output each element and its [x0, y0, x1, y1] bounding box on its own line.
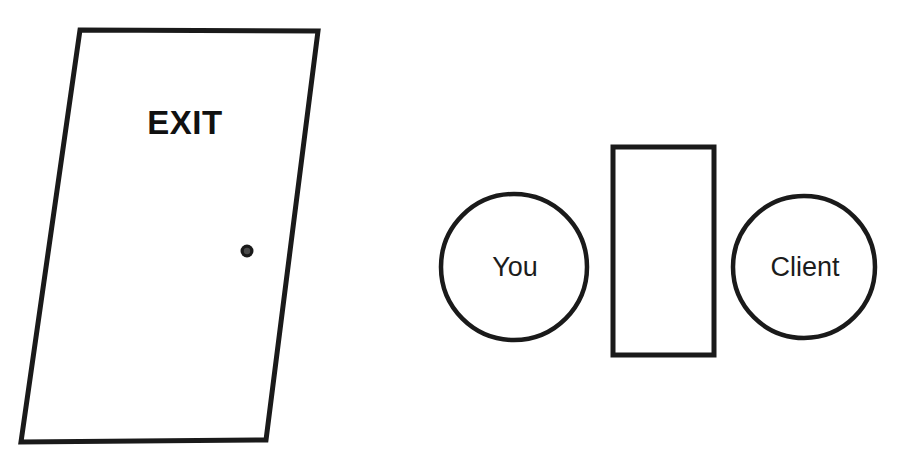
exit-door-group[interactable]: [21, 30, 318, 442]
table-rectangle[interactable]: [613, 147, 714, 355]
you-seat-circle[interactable]: [441, 194, 587, 340]
exit-door-shape[interactable]: [21, 30, 318, 442]
diagram-scene: [0, 0, 902, 470]
client-seat-circle[interactable]: [733, 196, 875, 338]
diagram-canvas: EXIT You Client: [0, 0, 902, 470]
doorknob-inner-icon: [244, 248, 250, 254]
